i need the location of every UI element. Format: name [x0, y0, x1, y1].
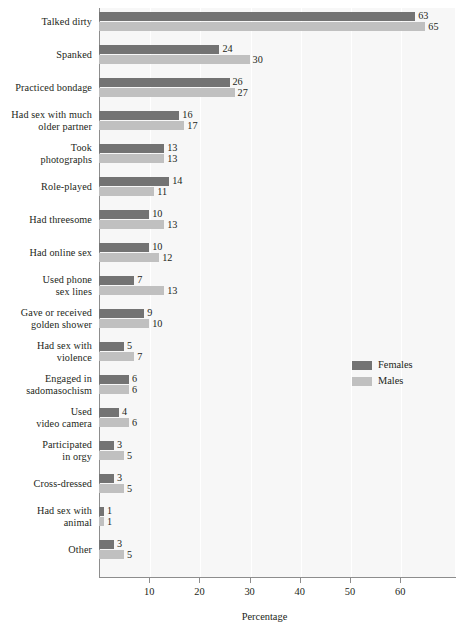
bar-females [99, 144, 164, 153]
bar-value-females: 10 [152, 209, 162, 219]
bar-value-females: 5 [127, 341, 132, 351]
category-label-line: Used [0, 406, 92, 418]
category-label-line: Engaged in [0, 373, 92, 385]
category-label-line: animal [0, 517, 92, 529]
category-label-line: Other [0, 544, 92, 556]
category-label: Had sex with mucholder partner [0, 109, 92, 132]
bar-males [99, 352, 134, 361]
bar-value-males: 13 [167, 220, 177, 230]
tick-label-60: 60 [380, 586, 420, 597]
category-label-line: Practiced bondage [0, 82, 92, 94]
bar-value-females: 3 [117, 440, 122, 450]
bar-value-females: 9 [147, 308, 152, 318]
bar-females [99, 78, 230, 87]
legend-label-males: Males [378, 374, 403, 388]
category-label-line: sex lines [0, 286, 92, 298]
bar-row: Used phonesex lines713 [0, 274, 463, 307]
category-label: Practiced bondage [0, 82, 92, 94]
category-label: Talked dirty [0, 16, 92, 28]
category-label-line: older partner [0, 121, 92, 133]
bar-row: Had sex withanimal11 [0, 505, 463, 538]
bar-females [99, 45, 219, 54]
category-label: Engaged insadomasochism [0, 373, 92, 396]
legend-swatch-females-icon [352, 361, 372, 370]
category-label: Cross-dressed [0, 478, 92, 490]
legend-swatch-males-icon [352, 377, 372, 386]
bar-females [99, 441, 114, 450]
category-label-line: violence [0, 352, 92, 364]
bar-females [99, 342, 124, 351]
bar-value-females: 16 [182, 110, 192, 120]
tick-mark-20 [199, 577, 200, 583]
bar-females [99, 210, 149, 219]
bar-value-females: 26 [233, 77, 243, 87]
tick-label-30: 30 [230, 586, 270, 597]
category-label-line: Participated [0, 439, 92, 451]
category-label: Had threesome [0, 214, 92, 226]
tick-mark-40 [300, 577, 301, 583]
bar-value-females: 63 [418, 11, 428, 21]
tick-mark-30 [250, 577, 251, 583]
bar-value-females: 3 [117, 473, 122, 483]
bar-males [99, 451, 124, 460]
bar-males [99, 484, 124, 493]
category-label: Tookphotographs [0, 142, 92, 165]
category-label: Had sex withanimal [0, 505, 92, 528]
category-label-line: Had sex with [0, 340, 92, 352]
bar-value-males: 12 [162, 253, 172, 263]
tick-mark-50 [350, 577, 351, 583]
bar-row: Role-played1411 [0, 175, 463, 208]
bar-row: Had sex with mucholder partner1617 [0, 109, 463, 142]
bar-row: Usedvideo camera46 [0, 406, 463, 439]
bar-value-males: 10 [152, 319, 162, 329]
category-label: Gave or receivedgolden shower [0, 307, 92, 330]
bar-females [99, 276, 134, 285]
bar-row: Had online sex1012 [0, 241, 463, 274]
bar-males [99, 418, 129, 427]
bar-males [99, 550, 124, 559]
category-label-line: video camera [0, 418, 92, 430]
bar-females [99, 177, 169, 186]
bar-females [99, 309, 144, 318]
bar-value-males: 65 [428, 22, 438, 32]
category-label-line: Used phone [0, 274, 92, 286]
bar-males [99, 517, 104, 526]
category-label-line: Had sex with much [0, 109, 92, 121]
bar-row: Talked dirty6365 [0, 10, 463, 43]
category-label: Had sex withviolence [0, 340, 92, 363]
bar-females [99, 474, 114, 483]
bar-males [99, 22, 425, 31]
bar-value-females: 6 [132, 374, 137, 384]
bar-females [99, 408, 119, 417]
bar-value-females: 1 [107, 506, 112, 516]
bar-males [99, 220, 164, 229]
category-label-line: Took [0, 142, 92, 154]
tick-label-10: 10 [129, 586, 169, 597]
bar-value-males: 17 [187, 121, 197, 131]
bar-row: Other35 [0, 538, 463, 571]
category-label-line: Gave or received [0, 307, 92, 319]
tick-label-50: 50 [330, 586, 370, 597]
x-axis-title: Percentage [0, 611, 463, 622]
category-label: Usedvideo camera [0, 406, 92, 429]
category-label-line: Spanked [0, 49, 92, 61]
tick-label-40: 40 [280, 586, 320, 597]
bar-males [99, 121, 184, 130]
chart-legend: Females Males [352, 358, 452, 390]
category-label-line: Had threesome [0, 214, 92, 226]
bar-value-males: 11 [157, 187, 167, 197]
bar-females [99, 243, 149, 252]
bar-females [99, 375, 129, 384]
category-label: Spanked [0, 49, 92, 61]
bar-row: Spanked2430 [0, 43, 463, 76]
bar-row: Gave or receivedgolden shower910 [0, 307, 463, 340]
bar-value-males: 5 [127, 451, 132, 461]
bar-row: Participatedin orgy35 [0, 439, 463, 472]
category-label: Other [0, 544, 92, 556]
category-label-line: golden shower [0, 319, 92, 331]
category-label-line: Role-played [0, 181, 92, 193]
category-label: Used phonesex lines [0, 274, 92, 297]
bar-value-males: 27 [238, 88, 248, 98]
bar-males [99, 385, 129, 394]
bar-males [99, 319, 149, 328]
